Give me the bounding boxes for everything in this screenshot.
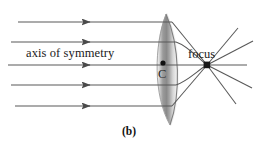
center-of-curvature-label: C	[158, 68, 166, 81]
reflected-ray-4	[176, 65, 207, 85]
optics-figure: axis of symmetry focus C (b)	[0, 0, 258, 148]
diverging-rays	[207, 28, 253, 104]
center-of-curvature-dot-icon	[160, 60, 165, 65]
focus-square-dot-icon	[204, 62, 211, 69]
axis-of-symmetry-label: axis of symmetry	[26, 47, 114, 60]
focus-label: focus	[188, 48, 215, 61]
panel-caption: (b)	[0, 126, 258, 138]
diverging-ray-5	[207, 65, 236, 104]
diverging-ray-4	[207, 65, 252, 88]
